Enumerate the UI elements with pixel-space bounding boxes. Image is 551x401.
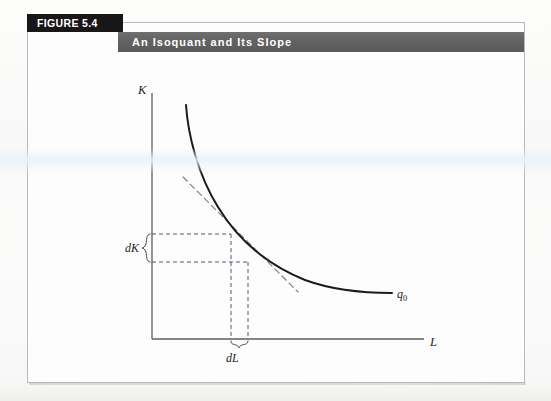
isoquant-curve (186, 105, 392, 293)
dk-label: dK (125, 241, 139, 256)
dk-brace (142, 234, 150, 262)
isoquant-plot (0, 0, 551, 401)
isoquant-label-subscript: 0 (403, 293, 407, 303)
dl-brace (231, 341, 248, 348)
x-axis-label: L (430, 335, 437, 350)
y-axis-label: K (138, 83, 146, 98)
tangent-line (183, 177, 298, 292)
dl-label: dL (226, 351, 239, 366)
isoquant-label: q0 (397, 287, 407, 303)
